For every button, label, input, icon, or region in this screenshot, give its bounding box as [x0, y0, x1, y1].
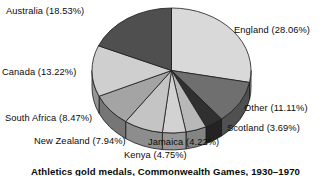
chart-caption: Athletics gold medals, Commonwealth Game…: [0, 166, 331, 176]
slice-label-jamaica: Jamaica (4.22%): [148, 137, 219, 148]
slice-label-kenya: Kenya (4.75%): [124, 150, 187, 161]
slice-label-england: England (28.06%): [234, 25, 310, 36]
slice-label-canada: Canada (13.22%): [2, 67, 76, 78]
slice-label-other: Other (11.11%): [244, 103, 308, 114]
chart-canvas: Australia (18.53%) England (28.06%) Cana…: [0, 0, 331, 176]
pie-slice-england: [172, 8, 252, 82]
slice-label-scotland: Scotland (3.69%): [227, 123, 300, 134]
slice-label-south-africa: South Africa (8.47%): [5, 113, 92, 124]
slice-label-new-zealand: New Zealand (7.94%): [34, 136, 126, 147]
slice-label-australia: Australia (18.53%): [6, 6, 84, 17]
